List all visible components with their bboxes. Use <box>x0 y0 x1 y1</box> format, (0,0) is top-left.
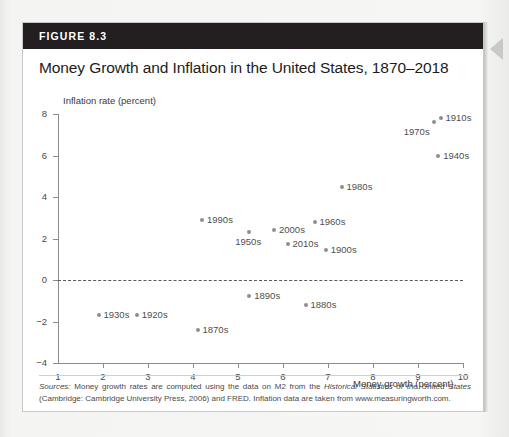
y-axis-tick-label: 6 <box>25 150 47 161</box>
x-axis-tick <box>373 363 374 368</box>
data-point-label: 2010s <box>293 238 319 249</box>
data-point-label: 1900s <box>331 244 357 255</box>
divider <box>39 375 469 376</box>
data-point-label: 1960s <box>320 216 346 227</box>
x-axis-tick <box>283 363 284 368</box>
data-point <box>313 220 317 224</box>
data-point <box>324 248 328 252</box>
scatter-plot: Inflation rate (percent)Money growth (pe… <box>23 23 485 413</box>
source-text-part-2: (Cambridge: Cambridge University Press, … <box>39 394 451 403</box>
y-axis-tick <box>53 322 58 323</box>
data-point <box>247 230 251 234</box>
data-point <box>135 313 139 317</box>
y-axis-tick <box>53 363 58 364</box>
data-point-label: 1980s <box>347 181 373 192</box>
y-axis-tick-label: 2 <box>25 233 47 244</box>
y-axis-tick <box>53 156 58 157</box>
x-axis-tick <box>103 363 104 368</box>
y-axis-tick <box>53 239 58 240</box>
data-point <box>200 218 204 222</box>
zero-reference-line <box>58 280 463 281</box>
y-axis-tick-label: 8 <box>25 108 47 119</box>
data-point <box>340 185 344 189</box>
y-axis-tick-label: 4 <box>25 191 47 202</box>
y-axis-tick <box>53 114 58 115</box>
figure-card: FIGURE 8.3 Money Growth and Inflation in… <box>22 22 484 412</box>
source-italic-title: Historical Statistics of the United Stat… <box>324 382 471 391</box>
y-axis-tick <box>53 197 58 198</box>
data-point <box>247 294 251 298</box>
data-point <box>196 328 200 332</box>
source-text-part-1: Money growth rates are computed using th… <box>71 382 324 391</box>
data-point-label: 1910s <box>446 112 472 123</box>
data-point-label: 1920s <box>142 309 168 320</box>
data-point-label: 1870s <box>203 324 229 335</box>
x-axis-tick <box>463 363 464 368</box>
data-point <box>286 242 290 246</box>
triangle-left-icon <box>490 38 503 60</box>
y-axis-tick-label: −2 <box>25 316 47 327</box>
data-point <box>97 313 101 317</box>
data-point <box>432 120 436 124</box>
data-point-label: 1950s <box>235 236 261 247</box>
data-point <box>436 154 440 158</box>
data-point <box>272 228 276 232</box>
x-axis-tick <box>193 363 194 368</box>
x-axis-tick <box>418 363 419 368</box>
data-point-label: 1940s <box>443 150 469 161</box>
data-point <box>304 303 308 307</box>
y-axis-tick-label: 0 <box>25 274 47 285</box>
y-axis-tick-label: −4 <box>25 357 47 368</box>
data-point <box>439 116 443 120</box>
source-note: Sources: Money growth rates are computed… <box>39 381 471 404</box>
data-point-label: 1880s <box>311 299 337 310</box>
y-axis-line <box>58 114 59 363</box>
data-point-label: 1970s <box>404 126 430 137</box>
data-point-label: 1990s <box>207 214 233 225</box>
source-prefix: Sources: <box>39 382 71 391</box>
x-axis-line <box>58 363 463 364</box>
data-point-label: 1930s <box>104 309 130 320</box>
y-axis-title: Inflation rate (percent) <box>63 95 156 106</box>
x-axis-tick <box>148 363 149 368</box>
data-point-label: 1890s <box>254 290 280 301</box>
data-point-label: 2000s <box>279 224 305 235</box>
x-axis-tick <box>238 363 239 368</box>
x-axis-tick <box>328 363 329 368</box>
